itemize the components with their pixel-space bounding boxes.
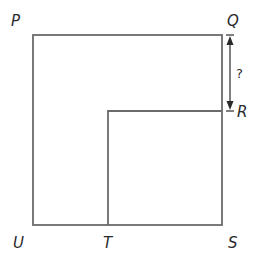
outer-square — [33, 35, 222, 225]
label-s: S — [228, 234, 238, 252]
inner-square — [108, 111, 222, 225]
label-r: R — [237, 103, 247, 121]
arrowhead-down-icon — [227, 101, 234, 110]
label-q: Q — [227, 12, 239, 30]
arrowhead-up-icon — [227, 36, 234, 45]
label-u: U — [13, 234, 24, 252]
label-p: P — [11, 12, 21, 30]
unknown-length-label: ? — [236, 66, 243, 81]
label-t: T — [103, 234, 114, 252]
geometry-diagram: P Q R S T U ? — [0, 0, 260, 267]
dimension-arrow-qr — [226, 35, 234, 111]
